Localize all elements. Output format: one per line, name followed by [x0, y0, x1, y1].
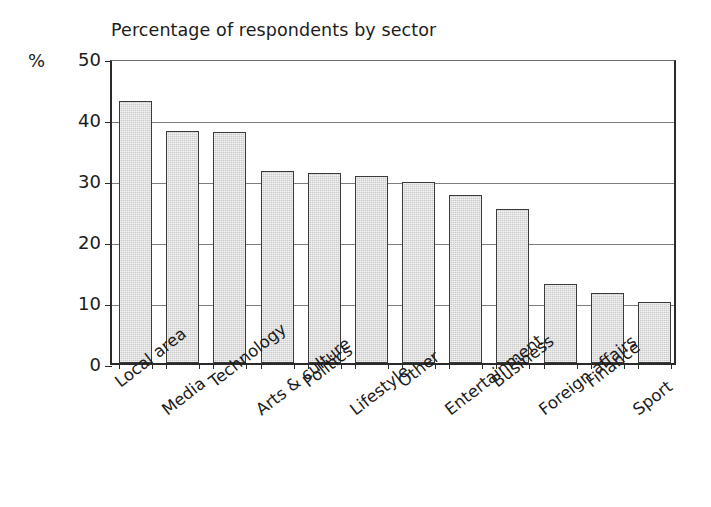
y-tick-10: [105, 305, 112, 306]
plot-area: [110, 60, 676, 365]
x-tick: [577, 363, 578, 369]
bar[interactable]: [355, 176, 388, 363]
gridline-40: [112, 122, 674, 123]
y-axis-unit-label: %: [28, 50, 45, 72]
bar[interactable]: [119, 101, 152, 363]
x-axis-label: Media: [159, 374, 209, 419]
y-tick-50: [105, 61, 112, 62]
y-tick-30: [105, 183, 112, 184]
x-tick: [199, 363, 200, 369]
y-tick-label-30: 30: [78, 173, 101, 191]
y-tick-label-50: 50: [78, 51, 101, 69]
bar[interactable]: [449, 195, 482, 363]
x-tick: [388, 363, 389, 369]
bar[interactable]: [213, 132, 246, 363]
y-tick-label-0: 0: [90, 356, 101, 374]
x-axis-label: Sport: [630, 378, 676, 419]
y-tick-20: [105, 244, 112, 245]
x-tick: [544, 363, 545, 369]
y-tick-0: [105, 366, 112, 367]
bar[interactable]: [308, 173, 341, 363]
y-axis-tick-labels: 01020304050: [56, 0, 101, 507]
x-tick: [482, 363, 483, 369]
bar[interactable]: [638, 302, 671, 363]
x-tick: [294, 363, 295, 369]
x-tick: [261, 363, 262, 369]
x-tick: [638, 363, 639, 369]
y-tick-label-10: 10: [78, 295, 101, 313]
x-tick: [449, 363, 450, 369]
y-tick-label-20: 20: [78, 234, 101, 252]
bar[interactable]: [402, 182, 435, 363]
chart-title: Percentage of respondents by sector: [111, 20, 436, 40]
bar-chart: Percentage of respondents by sector % 01…: [0, 0, 711, 507]
y-tick-40: [105, 122, 112, 123]
x-tick: [671, 363, 672, 369]
x-tick: [166, 363, 167, 369]
y-tick-label-40: 40: [78, 112, 101, 130]
x-tick: [355, 363, 356, 369]
